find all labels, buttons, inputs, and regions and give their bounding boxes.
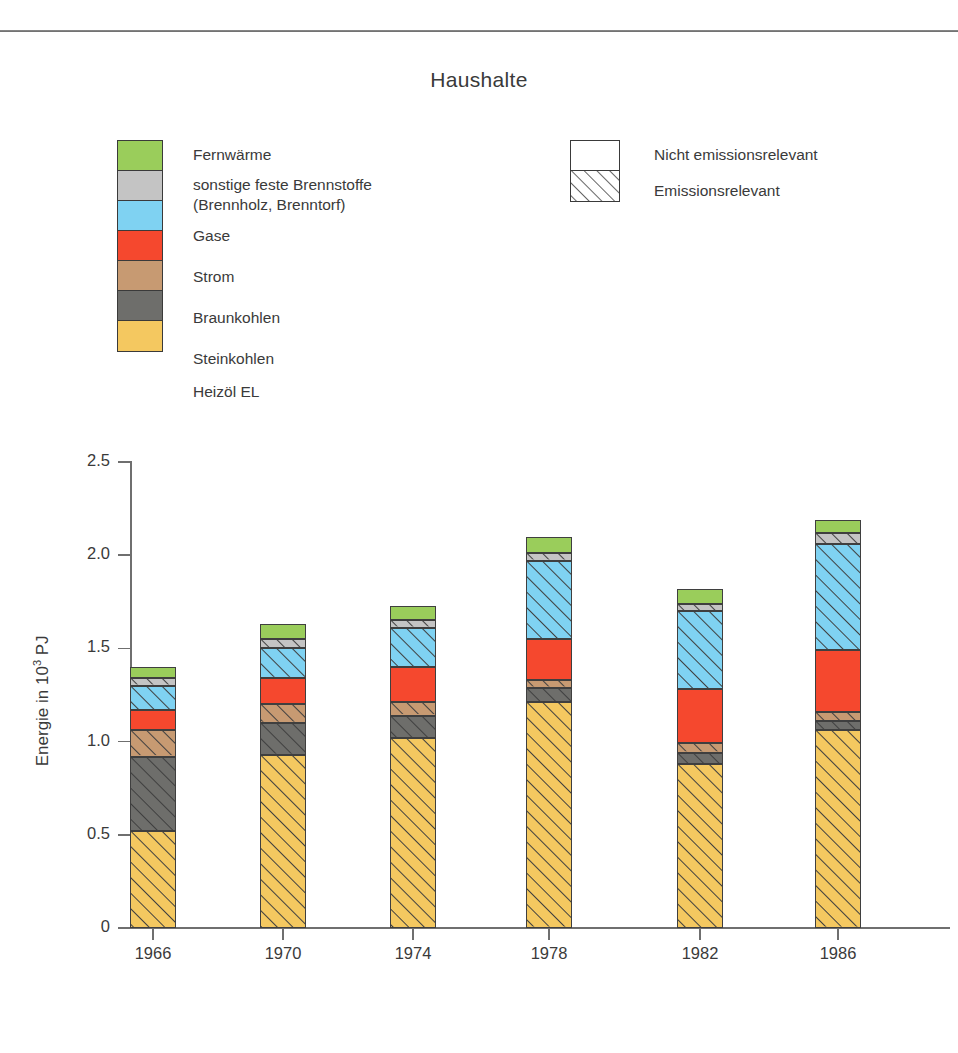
hatch-overlay-icon: [131, 832, 175, 927]
bar-segment[interactable]: [526, 680, 572, 687]
bar-segment[interactable]: [815, 520, 861, 533]
hatch-overlay-icon: [131, 731, 175, 755]
y-axis-title-prefix: Energie in 10: [33, 666, 52, 766]
x-tick-label: 1974: [368, 944, 458, 963]
bar-segment[interactable]: [130, 667, 176, 678]
bar-segment[interactable]: [260, 639, 306, 648]
bar-segment[interactable]: [677, 689, 723, 743]
bar-segment[interactable]: [390, 620, 436, 627]
bar-segment[interactable]: [815, 650, 861, 712]
hatch-overlay-icon: [527, 689, 571, 702]
chart-page: Haushalte Fernwärme sonstige feste Brenn…: [0, 0, 958, 1053]
bar-segment[interactable]: [260, 723, 306, 755]
y-tick: [118, 648, 130, 650]
hatch-overlay-icon: [816, 713, 860, 720]
x-tick-label: 1982: [655, 944, 745, 963]
hatch-overlay-icon: [261, 724, 305, 754]
bar-segment[interactable]: [677, 764, 723, 928]
x-tick-label: 1986: [793, 944, 883, 963]
bar-segment[interactable]: [260, 755, 306, 928]
bar-segment[interactable]: [260, 678, 306, 704]
hatch-overlay-icon: [261, 640, 305, 647]
hatch-overlay-icon: [678, 754, 722, 763]
bar-segment[interactable]: [677, 743, 723, 752]
y-tick: [118, 834, 130, 836]
bar-segment[interactable]: [130, 730, 176, 756]
bar-segment[interactable]: [260, 704, 306, 723]
bar-segment[interactable]: [677, 604, 723, 611]
bar-segment[interactable]: [130, 678, 176, 685]
y-tick: [118, 741, 130, 743]
bar-segment[interactable]: [815, 721, 861, 730]
hatch-overlay-icon: [678, 765, 722, 927]
hatch-overlay-icon: [816, 545, 860, 649]
hatch-overlay-icon: [527, 554, 571, 559]
x-tick: [548, 929, 550, 940]
bar-segment[interactable]: [815, 533, 861, 544]
hatch-overlay-icon: [131, 687, 175, 709]
bar-segment[interactable]: [526, 537, 572, 554]
bar-segment[interactable]: [677, 611, 723, 689]
y-tick: [118, 554, 130, 556]
hatch-overlay-icon: [261, 705, 305, 722]
hatch-overlay-icon: [527, 703, 571, 927]
hatch-overlay-icon: [131, 758, 175, 831]
bar-segment[interactable]: [390, 606, 436, 621]
bar-segment[interactable]: [390, 667, 436, 702]
bar-segment[interactable]: [526, 639, 572, 680]
hatch-overlay-icon: [391, 629, 435, 666]
x-tick: [152, 929, 154, 940]
y-tick-label: 2.5: [18, 451, 110, 470]
hatch-overlay-icon: [816, 722, 860, 729]
bar-segment[interactable]: [390, 628, 436, 667]
hatch-overlay-icon: [678, 612, 722, 688]
bar-segment[interactable]: [130, 710, 176, 731]
y-tick-label: 0.5: [18, 824, 110, 843]
bar-segment[interactable]: [526, 688, 572, 703]
hatch-overlay-icon: [527, 562, 571, 638]
hatch-overlay-icon: [816, 534, 860, 543]
y-tick-label: 2.0: [18, 544, 110, 563]
bar-segment[interactable]: [390, 738, 436, 928]
hatch-overlay-icon: [391, 703, 435, 714]
bar-segment[interactable]: [677, 589, 723, 604]
y-tick-label: 1.5: [18, 637, 110, 656]
bar-segment[interactable]: [526, 561, 572, 639]
bar-segment[interactable]: [390, 716, 436, 738]
bar-segment[interactable]: [390, 702, 436, 715]
y-tick-label: 1.0: [18, 731, 110, 750]
bar-segment[interactable]: [130, 757, 176, 832]
x-tick: [282, 929, 284, 940]
bar-segment[interactable]: [130, 831, 176, 928]
bar-segment[interactable]: [260, 648, 306, 678]
hatch-overlay-icon: [816, 731, 860, 927]
bar-segment[interactable]: [677, 753, 723, 764]
y-tick-label: 0: [18, 917, 110, 936]
x-tick: [837, 929, 839, 940]
hatch-overlay-icon: [678, 605, 722, 610]
bar-segment[interactable]: [526, 553, 572, 560]
hatch-overlay-icon: [678, 744, 722, 751]
x-tick-label: 1978: [504, 944, 594, 963]
hatch-overlay-icon: [261, 756, 305, 927]
bar-segment[interactable]: [815, 712, 861, 721]
hatch-overlay-icon: [527, 681, 571, 686]
x-tick: [699, 929, 701, 940]
y-tick: [118, 927, 130, 929]
bar-segment[interactable]: [815, 544, 861, 650]
x-tick: [412, 929, 414, 940]
bar-segment[interactable]: [815, 730, 861, 928]
x-tick-label: 1966: [108, 944, 198, 963]
bar-segment[interactable]: [130, 686, 176, 710]
chart-plot: Energie in 103 PJ 00.51.01.52.02.5 19661…: [0, 0, 958, 1053]
bar-segment[interactable]: [260, 624, 306, 639]
hatch-overlay-icon: [391, 739, 435, 927]
hatch-overlay-icon: [261, 649, 305, 677]
x-tick-label: 1970: [238, 944, 328, 963]
hatch-overlay-icon: [391, 717, 435, 737]
bar-segment[interactable]: [526, 702, 572, 928]
y-tick: [118, 461, 130, 463]
hatch-overlay-icon: [391, 621, 435, 626]
y-axis-title-exponent: 3: [31, 660, 43, 666]
hatch-overlay-icon: [131, 679, 175, 684]
